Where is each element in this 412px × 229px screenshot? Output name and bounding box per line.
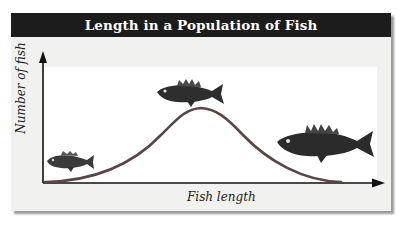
figure: Length in a Population of Fish — [11, 13, 391, 211]
medium-fish-icon — [157, 79, 224, 107]
y-axis-arrow-icon — [39, 51, 47, 63]
y-axis-label: Number of fish — [14, 33, 30, 143]
chart-svg — [11, 13, 391, 211]
large-fish-icon — [277, 124, 374, 163]
x-axis-label: Fish length — [187, 190, 256, 204]
small-fish-icon — [47, 151, 94, 172]
x-axis-arrow-icon — [372, 179, 385, 188]
